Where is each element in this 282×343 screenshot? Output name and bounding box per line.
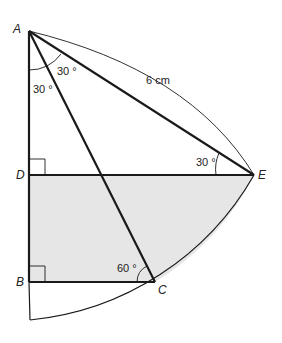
line-B-arc <box>29 282 30 320</box>
label-angle-C: 60 ° <box>117 262 137 274</box>
label-point-C: C <box>158 283 167 297</box>
angle-arc-E <box>216 153 219 175</box>
label-angle-A-lower: 30 ° <box>33 83 53 95</box>
label-point-A: A <box>12 22 21 36</box>
label-angle-E: 30 ° <box>196 156 216 168</box>
label-angle-A-upper: 30 ° <box>57 65 77 77</box>
angle-arc-A-lower <box>29 66 47 70</box>
label-point-B: B <box>16 275 24 289</box>
label-point-E: E <box>258 168 267 182</box>
label-point-D: D <box>16 168 25 182</box>
shaded-region <box>29 175 254 282</box>
line-AE <box>29 31 254 175</box>
label-length-AE: 6 cm <box>146 74 170 86</box>
geometry-diagram: A D E B C 30 ° 30 ° 30 ° 60 ° 6 cm <box>0 0 282 343</box>
right-angle-D <box>29 159 45 175</box>
